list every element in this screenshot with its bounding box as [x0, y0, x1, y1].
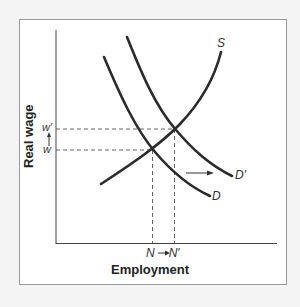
tick-w: w [43, 143, 51, 155]
tick-w-prime: w′ [42, 121, 52, 133]
x-tick-n-shift: NN′ [146, 246, 180, 260]
x-axis-title: Employment [0, 262, 300, 277]
tick-n-prime: N′ [169, 246, 180, 260]
tick-n: N [146, 246, 155, 260]
label-d: D [212, 189, 221, 203]
supply-curve-s [101, 52, 221, 184]
label-s: S [217, 36, 225, 50]
y-axis-title: Real wage [21, 104, 36, 168]
demand-curve-d [104, 57, 210, 196]
label-d-prime: D′ [235, 168, 246, 182]
demand-shift-arrowhead [207, 171, 214, 176]
